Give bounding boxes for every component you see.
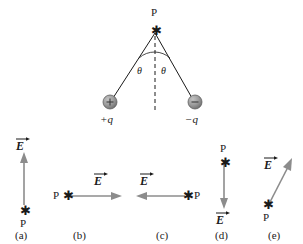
option-b-arrow-head bbox=[111, 192, 122, 200]
option-b-point-p-label: P bbox=[53, 190, 59, 201]
option-e-field-vector-label: E bbox=[264, 155, 272, 171]
option-d-point-star-marker: ✱ bbox=[220, 156, 231, 169]
option-d-field-label-text: E bbox=[216, 213, 224, 227]
option-a-vector-arrow-icon bbox=[16, 136, 24, 140]
option-b-key-label: (b) bbox=[73, 230, 86, 241]
option-d-key-label: (d) bbox=[215, 230, 228, 241]
option-d-arrow-head bbox=[220, 198, 228, 209]
option-e-point-star-marker: ✱ bbox=[263, 198, 274, 211]
option-e-vector-arrow-icon bbox=[264, 155, 272, 159]
option-d-field-vector-label: E bbox=[216, 210, 224, 226]
option-d-vector-arrow-icon bbox=[216, 210, 224, 214]
option-a-point-star-marker: ✱ bbox=[20, 204, 31, 217]
option-c-point-star-marker: ✱ bbox=[183, 189, 194, 202]
option-c-field-label-text: E bbox=[140, 174, 148, 188]
option-c-arrow-head bbox=[136, 192, 147, 200]
option-e-key-label: (e) bbox=[268, 230, 280, 241]
dipole-point-p-star-marker: ✱ bbox=[151, 24, 162, 37]
option-a-key-label: (a) bbox=[15, 230, 27, 241]
option-c-vector-arrow-icon bbox=[140, 171, 148, 175]
angle-theta-right-label: θ bbox=[161, 66, 166, 76]
positive-charge-label: +q bbox=[100, 114, 113, 125]
option-b-vector-arrow-icon bbox=[94, 171, 102, 175]
option-b-point-star-marker: ✱ bbox=[63, 189, 74, 202]
option-b-field-label-text: E bbox=[94, 174, 102, 188]
option-e-arrow-head bbox=[283, 158, 292, 171]
option-a-field-label-text: E bbox=[16, 139, 24, 153]
option-e-point-p-label: P bbox=[263, 212, 269, 223]
option-a-field-vector-label: E bbox=[16, 136, 24, 152]
angle-theta-left-label: θ bbox=[137, 66, 142, 76]
dipole-left-leg bbox=[113, 33, 155, 98]
option-c-key-label: (c) bbox=[156, 230, 168, 241]
option-c-field-vector-label: E bbox=[140, 171, 148, 187]
option-a-point-p-label: P bbox=[20, 218, 26, 229]
option-a-arrow-head bbox=[20, 152, 28, 163]
option-d-point-p-label: P bbox=[220, 143, 226, 154]
angle-arc-left bbox=[139, 52, 155, 58]
negative-charge-label: −q bbox=[185, 114, 198, 125]
option-e-field-label-text: E bbox=[264, 158, 272, 172]
electric-field-question-figure: P ✱ θ θ +q −q E ✱ P (a) P ✱ E (b) bbox=[0, 0, 303, 244]
option-b-field-vector-label: E bbox=[94, 171, 102, 187]
dipole-point-p-label: P bbox=[151, 7, 157, 18]
option-c-point-p-label: P bbox=[194, 190, 200, 201]
